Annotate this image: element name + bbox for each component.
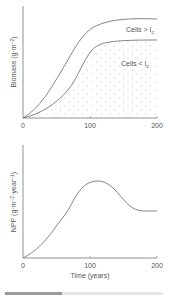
biomass-chart: Biomass (g·m−2) Cells > Ic Cells < Ic 0 …	[9, 6, 163, 129]
npp-y-label: NPP (g·m−2·year−1)	[9, 172, 19, 232]
scrollbar-thumb[interactable]	[5, 292, 62, 295]
annotation-cells-above-ic: Cells > Ic	[126, 26, 154, 35]
x-tick-200: 200	[151, 122, 163, 129]
npp-x-label: Time (years)	[70, 272, 109, 280]
x-tick-0: 0	[21, 122, 25, 129]
cells-below-ic-area	[23, 40, 157, 118]
x-tick-0: 0	[21, 262, 25, 269]
npp-chart: NPP (g·m−2·year−1) 0 100 200 Time (years…	[9, 145, 163, 280]
x-tick-100: 100	[84, 122, 96, 129]
npp-curve	[23, 181, 157, 258]
x-tick-100: 100	[84, 262, 96, 269]
biomass-y-label: Biomass (g·m−2)	[9, 36, 19, 87]
x-tick-200: 200	[151, 262, 163, 269]
figure: Biomass (g·m−2) Cells > Ic Cells < Ic 0 …	[0, 0, 169, 296]
horizontal-scrollbar[interactable]	[5, 292, 163, 295]
